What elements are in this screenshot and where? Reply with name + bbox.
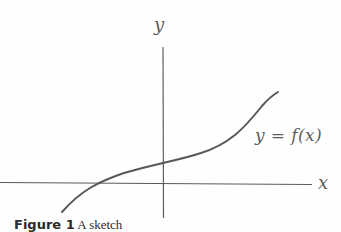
figure-caption-text: A sketch [75, 219, 123, 232]
function-plot [0, 0, 341, 232]
figure-container: y x y = f(x) Figure 1 A sketch [0, 0, 341, 232]
curve-equation-label: y = f(x) [255, 127, 322, 144]
x-axis-label: x [318, 174, 328, 192]
caption-clip-strip: Figure 1 A sketch [0, 219, 341, 232]
figure-caption: Figure 1 A sketch [14, 219, 122, 232]
function-curve [62, 92, 278, 212]
x-axis-line [0, 183, 312, 185]
y-axis-label: y [154, 16, 164, 34]
figure-caption-number: Figure 1 [14, 219, 75, 232]
y-axis-line [163, 47, 164, 218]
